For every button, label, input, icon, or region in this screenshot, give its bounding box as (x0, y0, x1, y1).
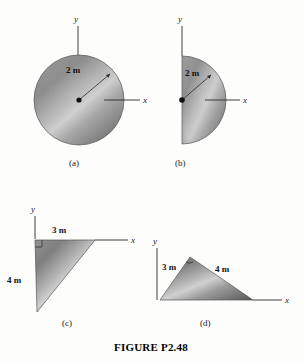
part-b-origin-dot (179, 97, 185, 103)
part-d-hyp-dimension-label: 4 m (215, 264, 230, 274)
part-a-y-axis-label: y (73, 14, 78, 24)
part-c-side-dimension-label: 4 m (7, 275, 22, 285)
part-a-caption: (a) (69, 158, 79, 168)
figure-canvas: y x 2 m (a) y x 2 m (b) y (0, 0, 303, 363)
part-a-x-axis-label: x (142, 95, 147, 105)
part-c-caption: (c) (62, 318, 72, 328)
figure-caption: FIGURE P2.48 (114, 341, 188, 353)
part-c-x-axis-label: x (130, 235, 135, 245)
part-a-radius-label: 2 m (66, 65, 81, 75)
part-b-y-axis-label: y (177, 14, 182, 24)
part-b-radius-label: 2 m (185, 68, 200, 78)
part-d-group: y x 3 m 4 m (d) (152, 236, 289, 328)
part-d-side-dimension-label: 3 m (162, 262, 177, 272)
part-d-y-axis-label: y (152, 236, 157, 246)
part-a-group: y x 2 m (a) (34, 14, 147, 168)
part-b-caption: (b) (175, 158, 186, 168)
figure-container: y x 2 m (a) y x 2 m (b) y (0, 0, 303, 363)
part-b-x-axis-label: x (242, 95, 247, 105)
part-d-x-axis-label: x (284, 295, 289, 305)
part-a-origin-dot (76, 97, 81, 102)
part-c-y-axis-label: y (30, 204, 35, 214)
part-d-caption: (d) (200, 318, 211, 328)
part-b-group: y x 2 m (b) (175, 14, 247, 168)
part-c-group: y x 3 m 4 m (c) (7, 204, 135, 328)
part-c-triangle-shape (35, 240, 95, 312)
part-c-top-dimension-label: 3 m (52, 225, 67, 235)
